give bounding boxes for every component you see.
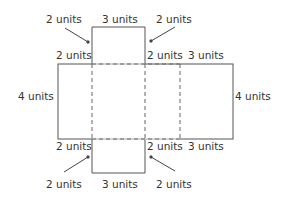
label-top-right-arrow: 2 units — [156, 13, 192, 25]
label-bottom-flap-width: 3 units — [102, 178, 138, 190]
arrow-bottom-right — [151, 157, 175, 171]
bottom-flap — [92, 139, 145, 173]
label-bottom-right-arrow: 2 units — [156, 178, 192, 190]
label-lower-left-edge: 2 units — [56, 140, 92, 152]
label-left-height: 4 units — [18, 90, 54, 102]
label-upper-right-edge: 3 units — [188, 49, 224, 61]
label-upper-left-edge: 2 units — [56, 49, 92, 61]
arrow-bottom-left — [64, 157, 88, 172]
label-lower-right-edge: 3 units — [188, 140, 224, 152]
label-top-flap-width: 3 units — [102, 13, 138, 25]
arrow-top-left — [65, 28, 88, 42]
label-upper-mid-edge: 2 units — [147, 49, 183, 61]
label-top-left-arrow: 2 units — [46, 13, 82, 25]
top-flap — [92, 27, 145, 64]
label-lower-mid-edge: 2 units — [147, 140, 183, 152]
label-right-height: 4 units — [235, 90, 271, 102]
arrow-top-right — [151, 27, 175, 41]
label-bottom-left-arrow: 2 units — [46, 178, 82, 190]
